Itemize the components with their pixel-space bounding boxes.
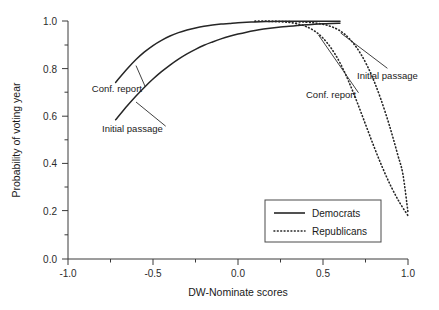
x-axis-ticks bbox=[68, 259, 408, 265]
series-curve bbox=[255, 21, 408, 212]
legend-label-republicans: Republicans bbox=[312, 226, 367, 237]
x-tick-label: -0.5 bbox=[144, 268, 162, 279]
y-tick-label: 0.6 bbox=[43, 111, 57, 122]
curve-annotation-label: Conf. report bbox=[92, 83, 143, 94]
x-axis-title: DW-Nominate scores bbox=[188, 286, 288, 298]
curve-annotation-label: Initial passage bbox=[102, 123, 163, 134]
y-axis-ticks bbox=[62, 21, 68, 259]
curve-annotation-label: Initial passage bbox=[357, 70, 418, 81]
annotation-leader-line bbox=[341, 33, 388, 68]
annotations-group: Conf. reportInitial passageConf. reportI… bbox=[92, 33, 418, 134]
annotation-leader-line bbox=[319, 35, 359, 93]
x-tick-label: -1.0 bbox=[59, 268, 77, 279]
y-tick-label: 0.2 bbox=[43, 206, 57, 217]
y-tick-label: 0.0 bbox=[43, 254, 57, 265]
series-curve bbox=[255, 21, 408, 215]
chart-canvas: 1.0 0.8 0.6 0.4 0.2 0.0 -1.0 -0.5 0.0 0.… bbox=[0, 0, 439, 310]
y-axis-title: Probability of voting year bbox=[10, 82, 22, 197]
legend-label-democrats: Democrats bbox=[312, 208, 360, 219]
chart-figure: 1.0 0.8 0.6 0.4 0.2 0.0 -1.0 -0.5 0.0 0.… bbox=[0, 0, 439, 310]
x-tick-label: 1.0 bbox=[401, 268, 415, 279]
legend[interactable]: Democrats Republicans bbox=[265, 200, 381, 242]
y-tick-label: 0.8 bbox=[43, 64, 57, 75]
x-tick-label: 0.5 bbox=[316, 268, 330, 279]
y-tick-label: 1.0 bbox=[43, 16, 57, 27]
curve-annotation-label: Conf. report bbox=[306, 89, 357, 100]
series-curve bbox=[116, 21, 340, 82]
y-axis-tick-labels: 1.0 0.8 0.6 0.4 0.2 0.0 bbox=[43, 16, 57, 265]
series-curve bbox=[116, 23, 340, 120]
y-tick-label: 0.4 bbox=[43, 158, 57, 169]
x-axis-tick-labels: -1.0 -0.5 0.0 0.5 1.0 bbox=[59, 268, 415, 279]
x-tick-label: 0.0 bbox=[231, 268, 245, 279]
